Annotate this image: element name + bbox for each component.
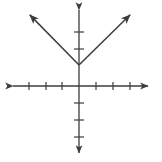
graph-figure — [0, 0, 162, 162]
left-ray — [30, 15, 79, 65]
coordinate-plane-svg — [0, 0, 162, 162]
absolute-value-curve — [30, 15, 130, 65]
right-ray — [79, 15, 130, 65]
